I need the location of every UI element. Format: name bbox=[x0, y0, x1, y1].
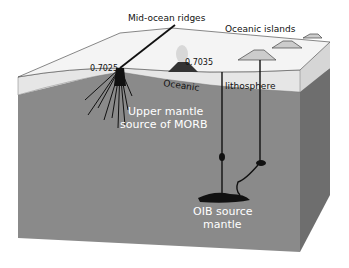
label-ratio-island: 0.7035 bbox=[185, 58, 213, 67]
mantle-block-diagram: Mid-ocean ridges Oceanic islands 0.7025 … bbox=[0, 0, 349, 268]
label-oceanic-islands: Oceanic islands bbox=[225, 24, 296, 34]
label-oib-source-1: OIB source bbox=[193, 205, 253, 218]
block-right-side-mantle bbox=[300, 68, 330, 252]
label-ratio-ridge: 0.7025 bbox=[90, 64, 118, 73]
label-oib-source-2: mantle bbox=[203, 218, 242, 231]
label-mid-ocean-ridges: Mid-ocean ridges bbox=[128, 13, 206, 23]
label-upper-mantle-1: Upper mantle bbox=[128, 105, 204, 118]
seamount-3 bbox=[303, 34, 322, 38]
label-upper-mantle-2: source of MORB bbox=[120, 118, 207, 131]
label-lithosphere: lithosphere bbox=[225, 81, 276, 91]
plume-blob-1 bbox=[219, 153, 225, 161]
